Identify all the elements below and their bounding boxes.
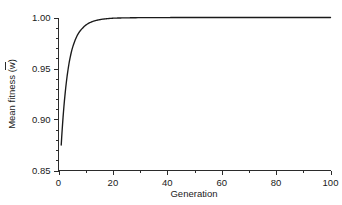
chart-canvas: 0.850.900.951.00 020406080100 Generation… (0, 0, 342, 205)
y-axis-title-prefix: Mean fitness ( (6, 68, 17, 128)
x-tick-label: 20 (108, 177, 119, 188)
y-tick-label: 0.85 (32, 165, 51, 176)
y-axis-title-symbol: w (6, 62, 17, 70)
y-axis-major-ticks (54, 19, 59, 172)
x-tick-label: 100 (323, 177, 339, 188)
x-axis-title: Generation (170, 188, 217, 199)
chart-figure: 0.850.900.951.00 020406080100 Generation… (0, 0, 342, 205)
y-axis-tick-labels: 0.850.900.951.00 (32, 12, 51, 176)
x-tick-label: 0 (56, 177, 61, 188)
x-tick-label: 60 (216, 177, 227, 188)
svg-text:Mean fitness (w): Mean fitness (w) (6, 59, 17, 129)
y-tick-label: 1.00 (32, 12, 51, 23)
y-tick-label: 0.95 (32, 63, 51, 74)
x-axis-tick-labels: 020406080100 (56, 177, 339, 188)
x-tick-label: 40 (162, 177, 173, 188)
y-axis-title-suffix: ) (6, 59, 17, 62)
fitness-curve (61, 18, 330, 146)
y-tick-label: 0.90 (32, 114, 51, 125)
x-tick-label: 80 (271, 177, 282, 188)
y-axis-title: Mean fitness (w) (5, 59, 17, 129)
